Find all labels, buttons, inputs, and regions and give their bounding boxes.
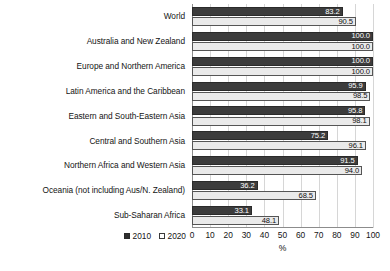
- x-tick-label: 60: [296, 229, 305, 242]
- bar-slot: 100.0: [192, 42, 373, 51]
- bar-group: 95.998.5: [192, 79, 373, 104]
- bar-value-label: 33.1: [235, 207, 251, 215]
- bar-slot: 96.1: [192, 141, 373, 150]
- bar-2020[interactable]: 98.1: [192, 117, 370, 126]
- bar-slot: 91.5: [192, 156, 373, 165]
- bar-slot: 94.0: [192, 166, 373, 175]
- legend-item-2010: 2010: [124, 231, 151, 241]
- legend-label: 2010: [133, 231, 151, 241]
- bar-2020[interactable]: 48.1: [192, 216, 279, 225]
- legend-label: 2020: [168, 231, 186, 241]
- bar-rows: 83.290.5100.0100.0100.0100.095.998.595.8…: [192, 4, 373, 228]
- bar-slot: 100.0: [192, 67, 373, 76]
- category-label: Australia and New Zealand: [0, 29, 189, 54]
- bar-value-label: 100.0: [351, 68, 372, 76]
- x-axis-title: %: [192, 243, 373, 253]
- bar-value-label: 96.1: [349, 142, 365, 150]
- bar-value-label: 48.1: [262, 217, 278, 225]
- chart-legend: 2010 2020: [36, 229, 186, 242]
- bar-slot: 98.5: [192, 92, 373, 101]
- x-tick-label: 20: [224, 229, 233, 242]
- bar-value-label: 100.0: [351, 32, 372, 40]
- x-tick-label: 80: [332, 229, 341, 242]
- bar-2020[interactable]: 98.5: [192, 92, 370, 101]
- category-label: Latin America and the Caribbean: [0, 79, 189, 104]
- category-label: World: [0, 4, 189, 29]
- bar-2010[interactable]: 36.2: [192, 181, 258, 190]
- bar-slot: 100.0: [192, 32, 373, 41]
- bar-group: 95.898.1: [192, 104, 373, 129]
- category-label: Central and Southern Asia: [0, 128, 189, 153]
- bar-2020[interactable]: 100.0: [192, 42, 373, 51]
- bar-2020[interactable]: 68.5: [192, 191, 316, 200]
- bar-value-label: 95.9: [348, 82, 364, 90]
- x-tick-label: 30: [242, 229, 251, 242]
- bar-2010[interactable]: 100.0: [192, 57, 373, 66]
- bar-value-label: 100.0: [351, 43, 372, 51]
- x-tick-label: 10: [205, 229, 214, 242]
- bar-value-label: 75.2: [311, 132, 327, 140]
- bar-slot: 95.9: [192, 82, 373, 91]
- bar-value-label: 91.5: [340, 157, 356, 165]
- x-tick-label: 70: [314, 229, 323, 242]
- bar-2010[interactable]: 33.1: [192, 206, 252, 215]
- bar-2010[interactable]: 100.0: [192, 32, 373, 41]
- x-tick-label: 0: [190, 229, 195, 242]
- x-tick-label: 50: [278, 229, 287, 242]
- bar-slot: 98.1: [192, 117, 373, 126]
- bar-group: 36.268.5: [192, 178, 373, 203]
- bar-value-label: 90.5: [338, 18, 354, 26]
- bar-slot: 75.2: [192, 131, 373, 140]
- bar-group: 91.594.0: [192, 153, 373, 178]
- bar-2010[interactable]: 83.2: [192, 7, 343, 16]
- x-axis-tick-labels: 0102030405060708090100: [192, 229, 373, 242]
- bar-slot: 83.2: [192, 7, 373, 16]
- bar-slot: 36.2: [192, 181, 373, 190]
- bar-value-label: 94.0: [345, 167, 361, 175]
- bar-slot: 33.1: [192, 206, 373, 215]
- category-label: Sub-Saharan Africa: [0, 203, 189, 228]
- category-label: Eastern and South-Eastern Asia: [0, 104, 189, 129]
- category-label: Oceania (not including Aus/N. Zealand): [0, 178, 189, 203]
- bar-group: 33.148.1: [192, 203, 373, 228]
- bar-group: 100.0100.0: [192, 29, 373, 54]
- legend-swatch-icon: [124, 233, 130, 239]
- category-axis-labels: World Australia and New Zealand Europe a…: [0, 4, 189, 228]
- legend-item-2020: 2020: [159, 231, 186, 241]
- bar-slot: 100.0: [192, 57, 373, 66]
- bar-2020[interactable]: 100.0: [192, 67, 373, 76]
- bar-2020[interactable]: 96.1: [192, 141, 366, 150]
- bar-value-label: 98.5: [353, 92, 369, 100]
- bar-2010[interactable]: 95.8: [192, 106, 365, 115]
- bar-value-label: 98.1: [352, 117, 368, 125]
- bar-2010[interactable]: 75.2: [192, 131, 328, 140]
- bar-group: 75.296.1: [192, 128, 373, 153]
- gridline: [373, 4, 374, 228]
- bar-value-label: 100.0: [351, 57, 372, 65]
- bar-slot: 95.8: [192, 106, 373, 115]
- bar-value-label: 36.2: [240, 182, 256, 190]
- bar-value-label: 95.8: [348, 107, 364, 115]
- x-tick-label: 40: [260, 229, 269, 242]
- bar-group: 83.290.5: [192, 4, 373, 29]
- plot-area: 83.290.5100.0100.0100.0100.095.998.595.8…: [192, 4, 373, 228]
- bar-group: 100.0100.0: [192, 54, 373, 79]
- bar-2020[interactable]: 90.5: [192, 17, 356, 26]
- category-label: Europe and Northern America: [0, 54, 189, 79]
- bar-2020[interactable]: 94.0: [192, 166, 362, 175]
- x-tick-label: 100: [366, 229, 380, 242]
- bar-slot: 68.5: [192, 191, 373, 200]
- legend-swatch-icon: [159, 233, 165, 239]
- bar-2010[interactable]: 95.9: [192, 82, 366, 91]
- bar-chart: World Australia and New Zealand Europe a…: [0, 0, 390, 271]
- bar-value-label: 68.5: [299, 192, 315, 200]
- category-label: Northern Africa and Western Asia: [0, 153, 189, 178]
- bar-slot: 90.5: [192, 17, 373, 26]
- bar-2010[interactable]: 91.5: [192, 156, 358, 165]
- bar-slot: 48.1: [192, 216, 373, 225]
- x-tick-label: 90: [350, 229, 359, 242]
- bar-value-label: 83.2: [325, 8, 341, 16]
